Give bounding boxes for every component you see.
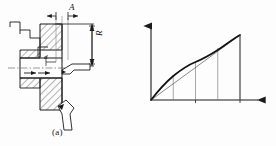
cutting-tool-icon	[62, 64, 90, 74]
caption-panel-a: (a)	[52, 127, 63, 137]
displacement-chart-svg	[138, 0, 276, 146]
panel-b-displacement-chart: x ϕ O π 2π S (b)	[138, 0, 276, 146]
cutting-tool-lower-icon	[58, 100, 74, 130]
dimension-label-R: R	[95, 31, 104, 37]
grid-lines	[173, 35, 240, 100]
dimension-A	[47, 12, 78, 20]
section-hatch-left	[20, 50, 40, 88]
dimension-R	[62, 24, 95, 66]
panel-a-machining-drawing: A R d (a)	[0, 0, 138, 146]
machining-drawing-svg	[0, 0, 138, 146]
dimension-label-A: A	[69, 3, 75, 12]
section-hatch-upper	[38, 24, 62, 57]
technical-figure: A R d (a)	[0, 0, 276, 146]
dimension-label-d: d	[44, 54, 48, 61]
